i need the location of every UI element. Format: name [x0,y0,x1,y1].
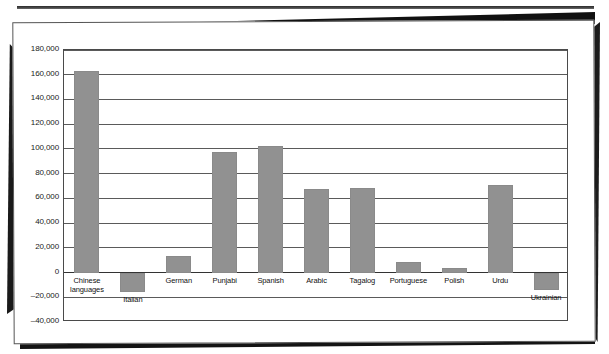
y-axis: 180,000160,000140,000120,000100,00080,00… [0,0,59,354]
x-axis-category-label: Chinese languages [63,276,119,294]
bar-spanish[interactable] [258,146,283,273]
y-axis-tick-label: 180,000 [1,45,59,53]
bar-tagalog[interactable] [350,188,375,273]
gridline-80000 [64,173,567,174]
gridline-100000 [64,148,567,149]
x-axis-category-label: Italian [101,295,165,304]
y-axis-tick-label: –20,000 [1,292,59,300]
bar-urdu[interactable] [488,185,513,273]
x-axis-category-label: Ukrainian [514,293,568,302]
gridline-120000 [64,124,567,125]
bar-polish[interactable] [442,268,467,273]
x-axis-category-label: Urdu [468,276,532,285]
bar-german[interactable] [166,256,191,272]
y-axis-tick-label: 60,000 [1,193,59,201]
bar-portuguese[interactable] [396,262,421,273]
y-axis-tick-label: 0 [1,268,59,276]
y-axis-tick-label: 140,000 [1,94,59,102]
gridline-180000 [64,50,567,51]
y-axis-tick-label: 120,000 [1,119,59,127]
y-axis-tick-label: 160,000 [1,70,59,78]
bar-italian[interactable] [120,273,145,293]
y-axis-tick-label: 40,000 [1,218,59,226]
y-axis-tick-label: 100,000 [1,144,59,152]
bar-arabic[interactable] [304,189,329,272]
bar-punjabi[interactable] [212,152,237,273]
decorative-top-rule [17,6,594,9]
gridline-160000 [64,74,567,75]
y-axis-tick-label: –40,000 [1,317,59,325]
plot-area: Chinese languagesItalianGermanPunjabiSpa… [63,49,568,321]
bar-ukrainian[interactable] [534,273,559,291]
bar-chinese-languages[interactable] [74,71,99,273]
gridline-140000 [64,99,567,100]
y-axis-tick-label: 80,000 [1,169,59,177]
y-axis-tick-label: 20,000 [1,243,59,251]
